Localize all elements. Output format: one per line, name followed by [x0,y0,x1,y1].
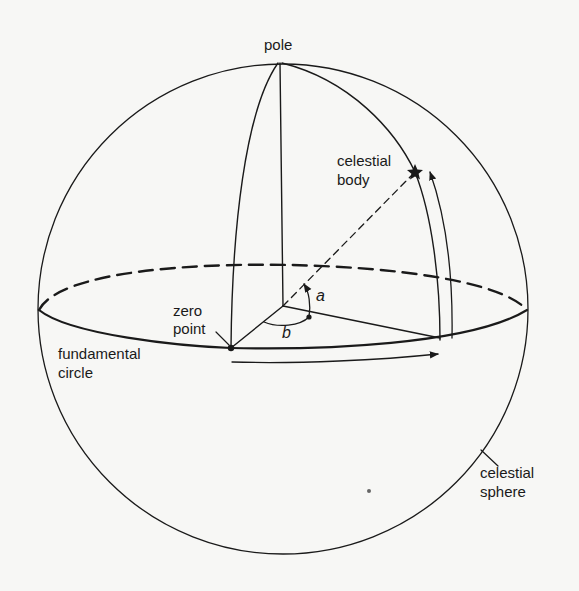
zero-point-dot [228,345,234,351]
zero-meridian [231,63,278,348]
celestial-sphere-label-1: celestial [480,464,534,482]
diagram-drawing [0,0,579,591]
celestial-body-label-1: celestial [337,152,391,170]
zero-point-label-2: point [173,320,206,338]
angle-a-label: a [316,287,325,305]
body-direction [283,174,413,306]
foot-radius [283,306,440,338]
fundamental-circle-label-2: circle [58,364,93,382]
angle-a-arc [304,284,310,317]
celestial-body-label-2: body [337,171,370,189]
body-meridian [282,63,440,340]
fundamental-circle-label-1: fundamental [58,345,141,363]
pole-label: pole [264,36,292,54]
zero-point-label-1: zero [173,302,202,320]
altitude-arrow [430,172,452,338]
zero-point-radius [231,306,283,348]
azimuth-arrow [232,354,438,363]
celestial-sphere-label-2: sphere [480,483,526,501]
stray-dot [367,489,371,493]
pole-axis [280,63,283,306]
celestial-sphere-diagram: pole celestial body zero point fundament… [0,0,579,591]
zero-point-pointer [216,332,229,345]
celestial-sphere-outline [38,64,528,554]
angle-b-dot [306,314,311,319]
angle-b-label: b [282,324,291,342]
